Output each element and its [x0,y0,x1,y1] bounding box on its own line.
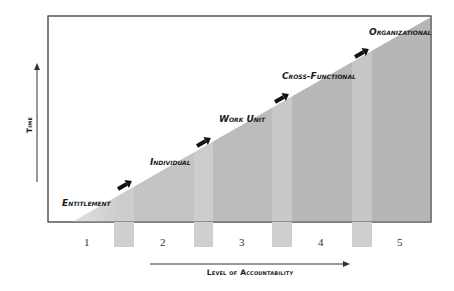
accountability-diagram: Entitlement Individual Work Unit Cross-F… [0,0,454,291]
x-axis-label: Level of Accountability [207,268,294,277]
separator-2-3 [194,222,213,247]
level-label-work-unit: Work Unit [219,114,266,124]
level-label-individual: Individual [150,157,191,167]
level-label-organizational: Organizational [369,27,432,37]
arrow-right-icon [343,261,350,267]
level-number-5: 5 [397,236,403,248]
separator-4-5 [352,222,372,247]
separator-1-2 [114,222,134,247]
level-number-1: 1 [84,236,90,248]
level-number-2: 2 [160,236,166,248]
separator-3-4 [272,222,292,247]
level-label-cross-functional: Cross-Functional [282,71,356,81]
y-axis-label: Time [25,117,34,134]
arrow-up-icon [34,63,40,70]
level-number-3: 3 [239,236,245,248]
level-label-entitlement: Entitlement [62,198,112,208]
level-number-4: 4 [318,236,324,248]
